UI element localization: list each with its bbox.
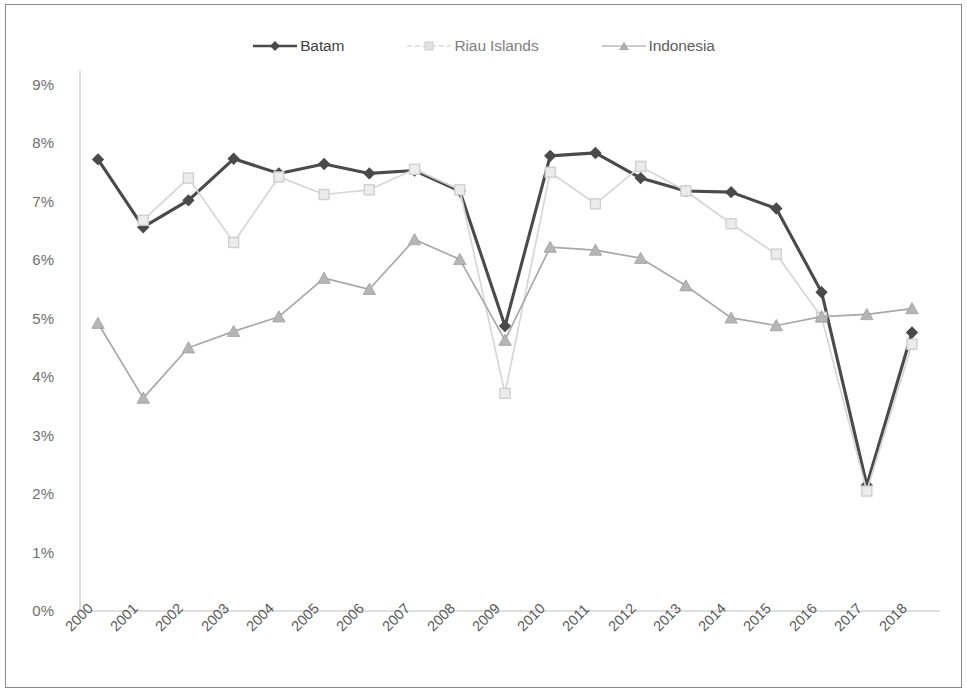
- series-batam: [92, 147, 918, 492]
- y-axis-tick-label: 2%: [8, 485, 54, 502]
- chart-series-layer: [92, 147, 918, 496]
- data-point: [92, 317, 104, 328]
- data-point: [227, 325, 239, 336]
- data-point: [183, 173, 193, 183]
- data-point: [408, 234, 420, 245]
- data-point: [318, 272, 330, 283]
- data-point: [770, 202, 782, 214]
- data-point: [589, 147, 601, 159]
- data-point: [906, 326, 918, 338]
- series-indonesia: [92, 234, 918, 404]
- data-point: [636, 161, 646, 171]
- data-point: [500, 388, 510, 398]
- y-axis-tick-label: 6%: [8, 251, 54, 268]
- y-axis-tick-label: 3%: [8, 427, 54, 444]
- data-point: [815, 286, 827, 298]
- y-axis-tick-label: 0%: [8, 602, 54, 619]
- data-point: [363, 167, 375, 179]
- data-point: [680, 280, 692, 291]
- y-axis-tick-label: 4%: [8, 368, 54, 385]
- data-point: [862, 486, 872, 496]
- data-point: [681, 186, 691, 196]
- data-point: [319, 189, 329, 199]
- data-point: [499, 334, 511, 345]
- data-point: [725, 312, 737, 323]
- data-point: [634, 172, 646, 184]
- data-point: [725, 186, 737, 198]
- y-axis-tick-label: 9%: [8, 76, 54, 93]
- data-point: [138, 215, 148, 225]
- data-point: [274, 172, 284, 182]
- data-point: [771, 249, 781, 259]
- data-point: [410, 164, 420, 174]
- data-point: [726, 219, 736, 229]
- series-riau-islands: [138, 161, 917, 496]
- y-axis-tick-label: 5%: [8, 310, 54, 327]
- chart-plot-area: [0, 0, 967, 693]
- y-axis-tick-label: 7%: [8, 193, 54, 210]
- data-point: [364, 185, 374, 195]
- chart-figure: Batam Riau Islands Indonesia 0%1: [0, 0, 967, 693]
- y-axis-tick-label: 8%: [8, 134, 54, 151]
- data-point: [229, 237, 239, 247]
- data-point: [318, 158, 330, 170]
- data-point: [544, 150, 556, 162]
- data-point: [545, 167, 555, 177]
- y-axis-tick-label: 1%: [8, 544, 54, 561]
- data-point: [590, 199, 600, 209]
- data-point: [906, 303, 918, 314]
- data-point: [182, 342, 194, 353]
- data-point: [454, 253, 466, 264]
- data-point: [907, 339, 917, 349]
- data-point: [455, 185, 465, 195]
